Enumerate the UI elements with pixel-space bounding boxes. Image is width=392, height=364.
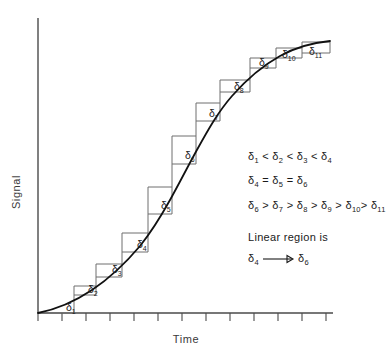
- axes-group: [38, 18, 333, 313]
- annotation-linear-from: δ4: [248, 252, 259, 267]
- x-axis-ticks: [38, 313, 326, 321]
- annotation-line-3: δ6 > δ7 > δ8 > δ9 > δ10> δ11: [248, 199, 386, 214]
- annotation-linear-to: δ6: [298, 252, 309, 267]
- y-axis-label: Signal: [10, 175, 22, 209]
- step-label-8: δ8: [234, 80, 244, 94]
- annotation-line-1: δ1 < δ2 < δ3 < δ4: [248, 150, 332, 165]
- x-axis-label: Time: [173, 333, 199, 345]
- annotation-line-2: δ4 = δ5 = δ6: [248, 174, 308, 189]
- figure-container: δ1 δ2 δ3 δ4 δ5 δ6 δ7 δ8: [0, 0, 392, 364]
- step-label-6: δ6: [185, 149, 195, 163]
- signal-vs-time-plot: δ1 δ2 δ3 δ4 δ5 δ6 δ7 δ8: [0, 0, 392, 364]
- step-label-11: δ11: [309, 45, 322, 59]
- step-label-3: δ3: [112, 263, 122, 277]
- arrow-right-icon: [263, 256, 293, 263]
- annotation-linear-region-text: Linear region is: [248, 231, 328, 243]
- annotation-block: δ1 < δ2 < δ3 < δ4 δ4 = δ5 = δ6 δ6 > δ7 >…: [248, 150, 386, 267]
- step-label-7: δ7: [209, 107, 219, 121]
